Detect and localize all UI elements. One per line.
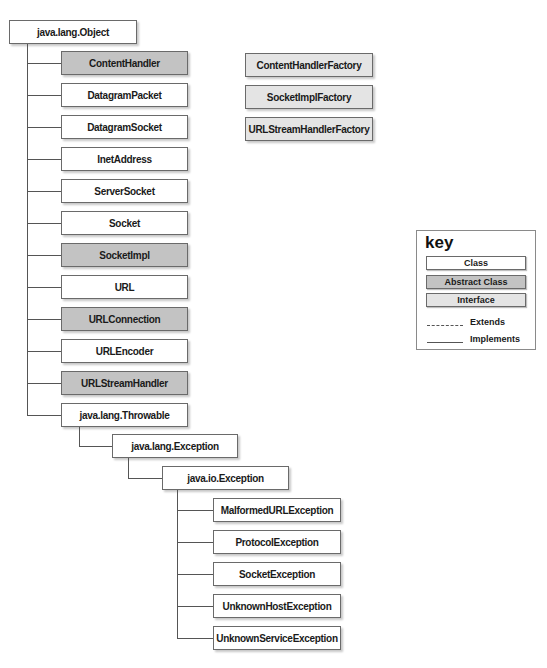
abstract-class-box-socketimpl: SocketImpl [61, 243, 188, 267]
connector [27, 95, 61, 96]
class-box-java-lang-exception: java.lang.Exception [112, 434, 238, 458]
legend-solid-line-icon [427, 342, 463, 343]
legend-class-swatch: Class [426, 256, 526, 270]
legend-interface-swatch: Interface [426, 293, 526, 307]
connector [27, 415, 61, 416]
interface-box-socketimplfactory: SocketImplFactory [245, 85, 373, 109]
connector [27, 319, 61, 320]
class-box-java-lang-throwable: java.lang.Throwable [61, 403, 188, 427]
class-box-protocolexception: ProtocolException [213, 530, 341, 554]
class-hierarchy-diagram: java.lang.Object ContentHandler Datagram… [0, 0, 547, 668]
class-box-socket: Socket [61, 211, 188, 235]
class-box-unknownserviceexception: UnknownServiceException [213, 626, 341, 650]
class-box-serversocket: ServerSocket [61, 179, 188, 203]
connector [27, 127, 61, 128]
connector-exception-trunk [128, 458, 129, 478]
connector [27, 351, 61, 352]
class-box-inetaddress: InetAddress [61, 147, 188, 171]
class-box-urlencoder: URLEncoder [61, 339, 188, 363]
connector [177, 574, 213, 575]
legend-key: key Class Abstract Class Interface Exten… [416, 230, 536, 350]
abstract-class-box-urlconnection: URLConnection [61, 307, 188, 331]
connector [27, 63, 61, 64]
connector-throwable-trunk [79, 427, 80, 446]
connector [27, 223, 61, 224]
connector [27, 255, 61, 256]
abstract-class-box-urlstreamhandler: URLStreamHandler [61, 371, 188, 395]
connector [177, 638, 213, 639]
class-box-datagramsocket: DatagramSocket [61, 115, 188, 139]
legend-abstract-class-swatch: Abstract Class [426, 275, 526, 289]
abstract-class-box-contenthandler: ContentHandler [61, 51, 188, 75]
connector [177, 510, 213, 511]
class-box-java-lang-object: java.lang.Object [9, 20, 137, 44]
class-box-unknownhostexception: UnknownHostException [213, 594, 341, 618]
connector [27, 159, 61, 160]
connector [128, 478, 162, 479]
class-box-socketexception: SocketException [213, 562, 341, 586]
interface-box-urlstreamhandlerfactory: URLStreamHandlerFactory [245, 117, 373, 141]
class-box-java-io-exception: java.io.Exception [162, 466, 289, 490]
legend-title: key [425, 233, 453, 253]
connector [177, 542, 213, 543]
connector-object-trunk [27, 44, 28, 415]
connector [27, 383, 61, 384]
class-box-datagrampacket: DatagramPacket [61, 83, 188, 107]
class-box-malformedurlexception: MalformedURLException [213, 498, 341, 522]
connector-io-exception-trunk [177, 490, 178, 638]
interface-box-contenthandlerfactory: ContentHandlerFactory [245, 53, 373, 77]
legend-extends-label: Extends [470, 317, 505, 327]
legend-implements-label: Implements [470, 334, 520, 344]
connector [27, 287, 61, 288]
connector [177, 606, 213, 607]
connector [27, 191, 61, 192]
connector [79, 446, 112, 447]
legend-dashed-line-icon [427, 325, 463, 326]
class-box-url: URL [61, 275, 188, 299]
